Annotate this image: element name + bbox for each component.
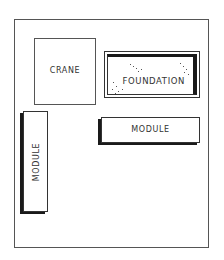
crane-block: CRANE: [34, 38, 96, 105]
foundation-label: FOUNDATION: [123, 76, 185, 86]
module-vertical-block: MODULE: [23, 111, 48, 212]
foundation-inner: FOUNDATION: [107, 54, 197, 95]
module-horizontal-block: MODULE: [101, 117, 200, 143]
module-horizontal-label: MODULE: [102, 125, 199, 134]
crane-label: CRANE: [35, 66, 95, 75]
foundation-block: FOUNDATION: [104, 51, 200, 98]
module-vertical-label: MODULE: [31, 142, 40, 180]
